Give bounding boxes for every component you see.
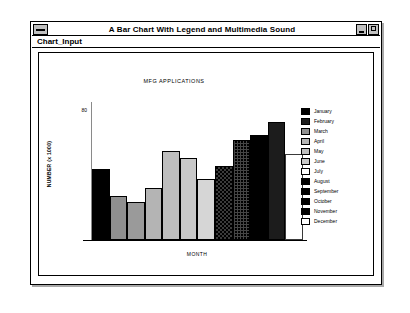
bar-april [145, 188, 163, 240]
legend-swatch-icon [301, 108, 310, 115]
bar-series [92, 102, 303, 240]
legend-item-june: June [301, 156, 373, 166]
bar-september [233, 140, 251, 240]
legend-label: January [314, 108, 332, 115]
legend-item-march: March [301, 126, 373, 136]
chart-title: MFG APPLICATIONS [39, 78, 309, 84]
legend-label: July [314, 168, 323, 175]
legend-swatch-icon [301, 148, 310, 155]
legend-item-february: February [301, 116, 373, 126]
legend-label: June [314, 158, 325, 165]
system-menu-icon[interactable] [33, 24, 48, 35]
legend-label: November [314, 208, 337, 215]
legend-swatch-icon [301, 128, 310, 135]
legend-swatch-icon [301, 138, 310, 145]
bar-november [268, 122, 286, 240]
maximize-icon[interactable] [368, 24, 379, 35]
bar-may [162, 151, 180, 240]
legend-swatch-icon [301, 188, 310, 195]
x-axis-line [83, 240, 307, 241]
legend-item-september: September [301, 186, 373, 196]
menu-bar: Chart_Input [32, 36, 380, 48]
legend-item-december: December [301, 216, 373, 226]
legend-label: April [314, 138, 324, 145]
legend-item-november: November [301, 206, 373, 216]
chart-frame: MFG APPLICATIONS NUMBER (x 1000) 80 MONT… [38, 52, 374, 276]
legend-label: October [314, 198, 332, 205]
legend-swatch-icon [301, 168, 310, 175]
legend-label: December [314, 218, 337, 225]
legend-swatch-icon [301, 178, 310, 185]
bar-february [110, 196, 128, 240]
bar-june [180, 158, 198, 240]
legend-label: March [314, 128, 328, 135]
window-title: A Bar Chart With Legend and Multimedia S… [48, 24, 356, 35]
legend-label: May [314, 148, 323, 155]
menu-item-chart-input[interactable]: Chart_Input [34, 37, 85, 47]
bar-august [215, 166, 233, 240]
legend-label: September [314, 188, 338, 195]
legend-swatch-icon [301, 118, 310, 125]
legend-label: February [314, 118, 334, 125]
legend-swatch-icon [301, 198, 310, 205]
title-bar: A Bar Chart With Legend and Multimedia S… [32, 23, 380, 36]
bar-october [250, 135, 268, 240]
desktop-background: A Bar Chart With Legend and Multimedia S… [0, 0, 410, 313]
x-axis-label: MONTH [91, 251, 303, 257]
legend-item-april: April [301, 136, 373, 146]
y-axis-tick-label: 80 [67, 107, 87, 113]
legend-swatch-icon [301, 218, 310, 225]
bar-march [127, 202, 145, 240]
legend-label: August [314, 178, 330, 185]
application-window: A Bar Chart With Legend and Multimedia S… [30, 21, 382, 285]
legend-swatch-icon [301, 208, 310, 215]
bar-january [92, 169, 110, 240]
y-axis-label: NUMBER (x 1000) [46, 124, 52, 204]
bar-july [197, 179, 215, 240]
chart-legend: JanuaryFebruaryMarchAprilMayJuneJulyAugu… [301, 106, 373, 226]
legend-item-january: January [301, 106, 373, 116]
client-area: MFG APPLICATIONS NUMBER (x 1000) 80 MONT… [32, 48, 380, 283]
legend-item-may: May [301, 146, 373, 156]
legend-swatch-icon [301, 158, 310, 165]
legend-item-october: October [301, 196, 373, 206]
legend-item-august: August [301, 176, 373, 186]
legend-item-july: July [301, 166, 373, 176]
minimize-icon[interactable] [356, 24, 367, 35]
